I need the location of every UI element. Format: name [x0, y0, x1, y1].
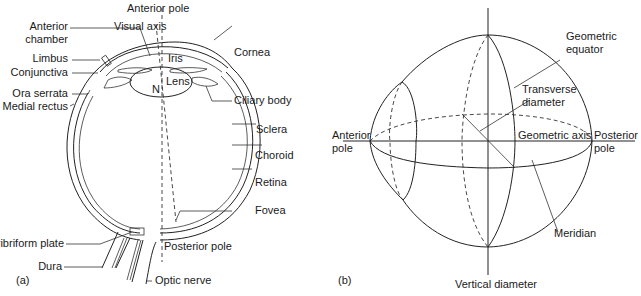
label-anterior-chamber-1: Anterior: [29, 20, 68, 32]
label-vertical-diameter: Vertical diameter: [455, 278, 537, 290]
label-anterior-pole-b-2: pole: [332, 142, 353, 154]
label-fovea: Fovea: [255, 204, 286, 216]
label-cornea: Cornea: [234, 46, 271, 58]
label-posterior-pole-b-1: Posterior: [594, 129, 638, 141]
label-posterior-pole: Posterior pole: [164, 240, 232, 252]
label-dura: Dura: [38, 260, 63, 272]
label-posterior-pole-b-2: pole: [594, 142, 615, 154]
label-ciliary-body: Ciliary body: [234, 94, 292, 106]
label-conjunctiva: Conjunctiva: [11, 66, 69, 78]
label-retina: Retina: [255, 176, 288, 188]
label-choroid: Choroid: [255, 149, 294, 161]
label-lens: Lens: [166, 75, 190, 87]
label-cribriform-plate: Cribriform plate: [0, 237, 64, 249]
label-visual-axis: Visual axis: [114, 20, 167, 32]
label-geometric-equator-1: Geometric: [566, 30, 617, 42]
retina-outline: [79, 76, 247, 229]
label-limbus: Limbus: [33, 52, 69, 64]
label-medial-rectus: Medial rectus: [3, 100, 69, 112]
label-geometric-axis: Geometric axis: [518, 129, 592, 141]
panel-a-eye-cross-section: Anterior pole Visual axis Anterior chamb…: [0, 2, 294, 286]
ciliary-body-left: [104, 77, 132, 88]
eye-anatomy-figure: Anterior pole Visual axis Anterior chamb…: [0, 0, 641, 296]
optic-nerve-fibers-left: [112, 238, 127, 268]
label-geometric-equator-2: equator: [566, 43, 604, 55]
label-meridian: Meridian: [554, 227, 596, 239]
leader-lines-a: [64, 26, 262, 281]
label-optic-nerve: Optic nerve: [155, 274, 211, 286]
label-ora-serrata: Ora serrata: [12, 87, 69, 99]
label-anterior-pole-b-1: Anterior: [332, 129, 371, 141]
optic-nerve-sheath: [132, 240, 156, 284]
label-nodal-point: N: [152, 83, 160, 95]
caption-b: (b): [338, 274, 351, 286]
panel-b-geometric-globe: Geometric equator Transverse diameter An…: [332, 8, 638, 290]
label-iris: Iris: [168, 52, 183, 64]
ciliary-body-right: [192, 77, 218, 86]
cornea-outline: [100, 47, 228, 72]
label-transverse-diameter-2: diameter: [522, 96, 565, 108]
label-anterior-pole: Anterior pole: [127, 2, 189, 14]
horizontal-meridian-front: [370, 141, 592, 168]
label-sclera: Sclera: [256, 123, 288, 135]
caption-a: (a): [16, 274, 29, 286]
label-anterior-chamber-2: chamber: [25, 33, 68, 45]
label-transverse-diameter-1: Transverse: [522, 83, 577, 95]
